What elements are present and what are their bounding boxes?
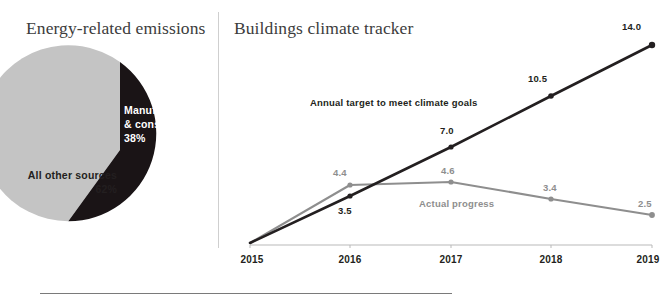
pie-label-all-other-sources-percent: 62% (27, 182, 117, 196)
actual-progress-line (250, 182, 652, 243)
annual-target-point-2018 (548, 93, 554, 99)
value-label-actual-2017: 4.6 (441, 165, 455, 176)
value-label-actual-2016: 4.4 (333, 167, 347, 178)
pie-label-manufacturing-line2: & construction (124, 118, 201, 130)
annual-target-point-2019 (649, 42, 655, 48)
line-chart-axes (250, 245, 652, 248)
actual-progress-point-2019 (649, 212, 655, 218)
series-actual-progress (250, 179, 655, 243)
value-label-target-2019: 14.0 (622, 21, 641, 32)
charts-graphics-layer (0, 0, 667, 307)
value-label-actual-2018: 3.4 (543, 182, 557, 193)
annual-target-point-2017 (448, 144, 453, 149)
x-axis-label-2016: 2016 (338, 254, 361, 265)
actual-progress-point-2017 (448, 179, 453, 184)
annual-target-point-2016 (347, 193, 352, 198)
x-axis-label-2015: 2015 (240, 254, 263, 265)
annotation-annual-target: Annual target to meet climate goals (310, 97, 477, 108)
annotation-actual-progress: Actual progress (419, 198, 494, 209)
pie-label-manufacturing-percent: 38% (124, 131, 201, 145)
x-axis-label-2019: 2019 (636, 254, 659, 265)
series-annual-target (250, 42, 655, 243)
value-label-target-2016: 3.5 (338, 205, 352, 216)
x-axis-label-2018: 2018 (539, 254, 562, 265)
annual-target-line (250, 45, 652, 243)
pie-label-manufacturing: Manufacturing & construction 38% (124, 103, 201, 146)
pie-label-all-other-sources-text: All other sources (28, 169, 117, 181)
pie-label-manufacturing-line1: Manufacturing (124, 104, 199, 116)
value-label-target-2018: 10.5 (528, 73, 547, 84)
actual-progress-point-2018 (548, 196, 553, 201)
footer-rule (40, 293, 452, 294)
pie-label-all-other-sources: All other sources 62% (27, 168, 117, 196)
actual-progress-point-2016 (347, 182, 352, 187)
value-label-target-2017: 7.0 (440, 125, 454, 136)
x-axis-label-2017: 2017 (439, 254, 462, 265)
value-label-actual-2019: 2.5 (638, 198, 652, 209)
